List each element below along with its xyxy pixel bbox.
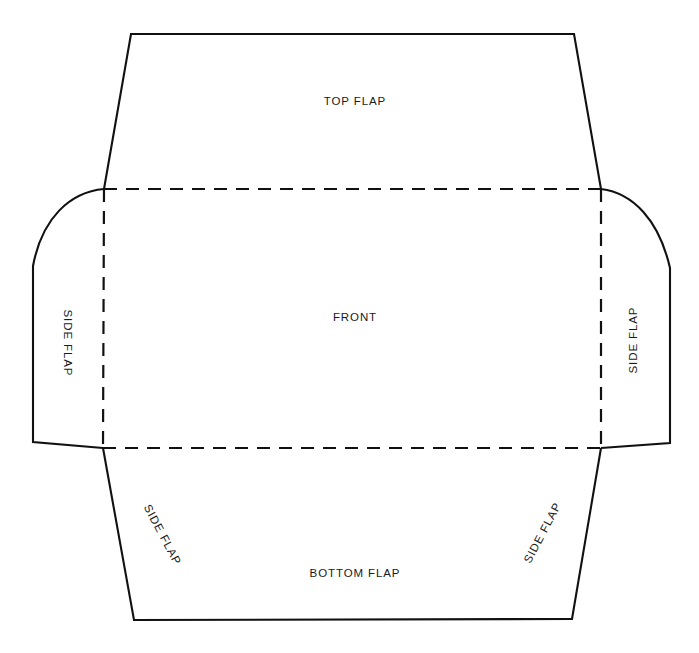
envelope-template-diagram: TOP FLAP FRONT BOTTOM FLAP SIDE FLAP SID…	[0, 0, 699, 653]
label-front-panel: FRONT	[333, 312, 377, 324]
label-bottom-flap: BOTTOM FLAP	[310, 568, 401, 580]
label-top-flap: TOP FLAP	[324, 96, 386, 108]
bottom-flap-cut-outline	[103, 448, 601, 620]
top-flap-cut-outline	[104, 34, 601, 189]
label-side-flap-right: SIDE FLAP	[628, 307, 640, 374]
fold-line-left	[103, 189, 104, 448]
label-side-flap-left: SIDE FLAP	[61, 310, 73, 377]
